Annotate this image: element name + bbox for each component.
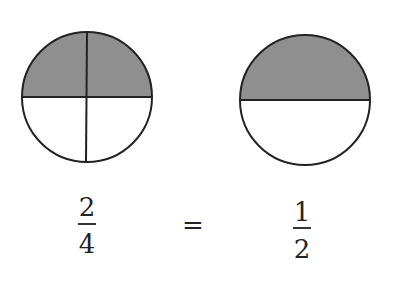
right-numerator: 1 bbox=[287, 199, 317, 225]
shaded-half bbox=[240, 35, 370, 100]
right-circle-halves bbox=[240, 35, 370, 165]
right-fraction-bar bbox=[293, 227, 311, 229]
right-denominator: 2 bbox=[287, 236, 317, 262]
left-denominator: 4 bbox=[72, 231, 102, 257]
left-fraction-bar bbox=[78, 223, 96, 225]
equals-sign: = bbox=[178, 212, 208, 238]
left-numerator: 2 bbox=[72, 194, 102, 220]
left-circle-quarters bbox=[22, 32, 152, 162]
